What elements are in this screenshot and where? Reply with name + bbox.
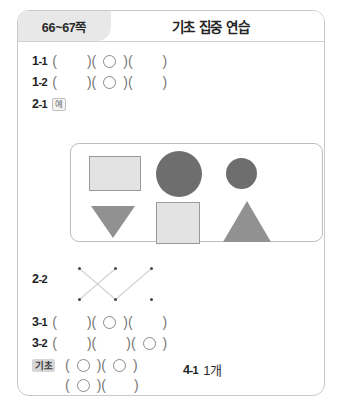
paren-open: ( bbox=[131, 336, 136, 350]
dot-connection-lines bbox=[70, 266, 180, 304]
paren-open: ( bbox=[128, 75, 133, 89]
example-badge: 예 bbox=[52, 98, 66, 111]
basic-answer-line-2: ( ) ( ) bbox=[65, 375, 139, 395]
paren-open: ( bbox=[65, 358, 70, 372]
shape-circle-large-dark bbox=[156, 151, 202, 197]
blank-group-3-1: ( ) ( ) ( ) bbox=[52, 315, 167, 329]
answer-row-1-1: 1-1 ( ) ( ) ( ) bbox=[32, 54, 167, 68]
dot-bottom-1 bbox=[78, 298, 81, 301]
question-number-4-1: 4-1 bbox=[183, 363, 198, 377]
page-range-tab: 66~67쪽 bbox=[18, 11, 111, 41]
answer-row-1-2: 1-2 ( ) ( ) ( ) bbox=[32, 75, 167, 89]
paren-open: ( bbox=[92, 54, 97, 68]
answer-row-4-1: 4-1 1개 bbox=[183, 360, 222, 379]
shape-circle-small-dark bbox=[226, 158, 257, 189]
shape-square-light bbox=[156, 202, 200, 244]
dot-matching-diagram bbox=[70, 266, 180, 304]
circle-answer-mark bbox=[103, 316, 116, 329]
paren-open: ( bbox=[101, 358, 106, 372]
dot-top-2 bbox=[114, 267, 117, 270]
answer-row-2-2: 2-2 bbox=[32, 272, 52, 286]
blank-group-3-2: ( ) ( ) ( ) bbox=[52, 336, 167, 350]
basic-answer-line-1: ( ) ( ) bbox=[65, 355, 139, 375]
shapes-panel bbox=[70, 143, 323, 242]
blank-group-1-2: ( ) ( ) ( ) bbox=[52, 75, 167, 89]
page-range-label: 66~67쪽 bbox=[42, 17, 87, 36]
basic-badge: 기초 bbox=[32, 359, 55, 372]
question-number-1-2: 1-2 bbox=[32, 75, 47, 89]
dot-top-1 bbox=[78, 267, 81, 270]
page-title: 기초 집중 연습 bbox=[111, 11, 324, 41]
question-number-2-2: 2-2 bbox=[32, 272, 47, 286]
basic-answer-block: ( ) ( ) ( ) ( ) bbox=[65, 355, 139, 395]
paren-open: ( bbox=[52, 315, 57, 329]
paren-open: ( bbox=[52, 54, 57, 68]
paren-open: ( bbox=[128, 315, 133, 329]
circle-answer-mark bbox=[77, 359, 90, 372]
question-number-2-1: 2-1 bbox=[32, 97, 47, 111]
shape-triangle-up bbox=[223, 201, 271, 242]
answer-value-4-1: 1개 bbox=[203, 360, 222, 379]
question-number-1-1: 1-1 bbox=[32, 54, 47, 68]
circle-answer-mark bbox=[77, 379, 90, 392]
paren-open: ( bbox=[92, 315, 97, 329]
answer-card: 66~67쪽 기초 집중 연습 1-1 ( ) ( ) ( ) 1-2 ( bbox=[17, 10, 325, 396]
circle-answer-mark bbox=[103, 76, 116, 89]
circle-answer-mark bbox=[143, 337, 156, 350]
paren-open: ( bbox=[52, 336, 57, 350]
paren-close: ) bbox=[163, 315, 168, 329]
dot-bottom-3 bbox=[150, 298, 153, 301]
answer-row-3-1: 3-1 ( ) ( ) ( ) bbox=[32, 315, 167, 329]
question-number-3-2: 3-2 bbox=[32, 336, 47, 350]
dot-top-3 bbox=[150, 267, 153, 270]
answer-row-2-1: 2-1 예 bbox=[32, 97, 66, 111]
paren-close: ) bbox=[163, 75, 168, 89]
paren-open: ( bbox=[92, 336, 97, 350]
blank-group-1-1: ( ) ( ) ( ) bbox=[52, 54, 167, 68]
basic-badge-row: 기초 bbox=[32, 359, 55, 372]
circle-answer-mark bbox=[113, 359, 126, 372]
card-body: 1-1 ( ) ( ) ( ) 1-2 ( ) ( ) bbox=[18, 42, 324, 396]
paren-open: ( bbox=[65, 378, 70, 392]
paren-open: ( bbox=[92, 75, 97, 89]
paren-close: ) bbox=[163, 54, 168, 68]
question-number-3-1: 3-1 bbox=[32, 315, 47, 329]
shape-rectangle-light bbox=[89, 156, 141, 191]
paren-close: ) bbox=[163, 336, 168, 350]
paren-open: ( bbox=[52, 75, 57, 89]
paren-close: ) bbox=[133, 358, 138, 372]
paren-open: ( bbox=[128, 54, 133, 68]
shape-triangle-down bbox=[91, 206, 135, 238]
answer-row-3-2: 3-2 ( ) ( ) ( ) bbox=[32, 336, 167, 350]
circle-answer-mark bbox=[103, 55, 116, 68]
dot-bottom-2 bbox=[114, 298, 117, 301]
paren-close: ) bbox=[134, 378, 139, 392]
paren-open: ( bbox=[101, 378, 106, 392]
card-header: 66~67쪽 기초 집중 연습 bbox=[18, 11, 324, 42]
